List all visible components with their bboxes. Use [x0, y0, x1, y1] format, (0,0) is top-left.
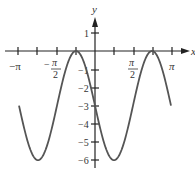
y-axis-arrow-icon [92, 17, 98, 27]
x-axis-label: x [190, 45, 195, 57]
y-axis-label: y [91, 3, 97, 15]
x-axis-arrow-icon [181, 48, 190, 54]
x-tick-label-pi: π [169, 60, 175, 72]
x-tick-label-half-pi-den: 2 [130, 69, 135, 80]
y-tick-label-m3: −3 [78, 101, 89, 112]
function-graph: x y −π − π 2 π 2 π 1 −1 −2 −3 −4 −5 −6 [0, 0, 195, 179]
y-tick-label-m2: −2 [78, 83, 89, 94]
x-tick-label-neg-half-pi-num: π [52, 57, 58, 68]
y-tick-label-m6: −6 [78, 155, 89, 166]
x-tick-label-neg-half-pi-sign: − [44, 59, 50, 70]
x-tick-label-neg-half-pi-den: 2 [53, 69, 58, 80]
x-tick-label-half-pi-num: π [129, 57, 135, 68]
x-tick-label-neg-pi: −π [9, 60, 21, 72]
y-tick-label-m4: −4 [78, 119, 89, 130]
y-tick-label-m5: −5 [78, 137, 89, 148]
y-tick-label-1: 1 [84, 28, 89, 39]
